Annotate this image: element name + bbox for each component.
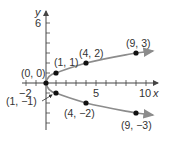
chart-canvas: −2 5 10 x 6 y [0,0,170,142]
point-4-2 [83,60,88,65]
leader-arrow [42,95,52,101]
label-0-0: (0, 0) [21,67,46,79]
label-9-3: (9, 3) [126,37,151,49]
point-0-0 [43,80,48,85]
label-1-1: (1, 1) [54,56,79,68]
label-9-neg3: (9, −3) [121,119,152,131]
label-4-2: (4, 2) [79,47,104,59]
x-axis-label: x [152,87,159,99]
label-1-neg1: (1, −1) [6,95,37,107]
label-4-neg2: (4, −2) [64,107,95,119]
lower-branch-curve [46,83,153,115]
point-4-neg2 [83,100,88,105]
point-9-neg3 [133,110,138,115]
point-1-1 [53,70,58,75]
point-9-3 [133,50,138,55]
x-tick-label-10: 10 [139,87,151,99]
point-1-neg1 [53,90,58,95]
parabola-plot: −2 5 10 x 6 y [0,0,170,142]
y-tick-label-6: 6 [35,17,41,29]
x-axis: −2 5 10 x [19,80,159,99]
x-tick-label-5: 5 [93,87,99,99]
